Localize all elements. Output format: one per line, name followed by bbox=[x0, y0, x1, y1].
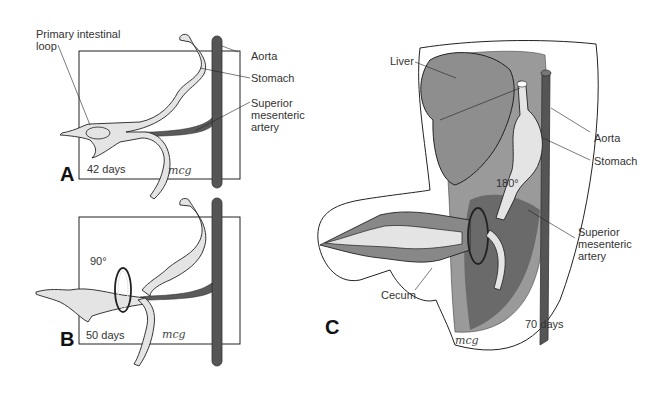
age-label-c: 70 days bbox=[525, 318, 564, 330]
label-cecum: Cecum bbox=[381, 289, 416, 301]
label-primary-intestinal-loop: Primary intestinal loop bbox=[36, 28, 120, 52]
label-stomach-c: Stomach bbox=[594, 155, 637, 167]
label-sma-a-line3: artery bbox=[251, 121, 305, 133]
aorta-a bbox=[212, 36, 222, 188]
rotation-angle-c: 180° bbox=[496, 177, 519, 189]
label-stomach-a: Stomach bbox=[251, 72, 294, 84]
panel-c-drawing bbox=[318, 41, 598, 350]
stomach-b bbox=[142, 198, 206, 296]
label-aorta-a: Aorta bbox=[251, 50, 277, 62]
embryology-diagram bbox=[0, 0, 667, 412]
label-sma-c: Superior mesenteric artery bbox=[578, 226, 632, 262]
label-sma-a-line2: mesenteric bbox=[251, 109, 305, 121]
label-sma-c-line1: Superior bbox=[578, 226, 632, 238]
panel-letter-b: B bbox=[60, 328, 74, 351]
label-sma-a-line1: Superior bbox=[251, 97, 305, 109]
aorta-c bbox=[540, 72, 550, 345]
label-sma-c-line3: artery bbox=[578, 250, 632, 262]
panel-letter-c: C bbox=[325, 316, 339, 339]
label-loop-line2: loop bbox=[36, 40, 120, 52]
panel-letter-a: A bbox=[60, 163, 74, 186]
label-loop-line1: Primary intestinal bbox=[36, 28, 120, 40]
signature-a: mcg bbox=[168, 164, 192, 177]
signature-c: mcg bbox=[455, 334, 479, 347]
label-aorta-c: Aorta bbox=[594, 132, 620, 144]
label-sma-a: Superior mesenteric artery bbox=[251, 97, 305, 133]
aorta-b bbox=[212, 198, 222, 366]
label-liver: Liver bbox=[390, 55, 414, 67]
age-label-b: 50 days bbox=[86, 329, 125, 341]
signature-b: mcg bbox=[162, 328, 186, 341]
rotation-angle-b: 90° bbox=[90, 255, 107, 267]
age-label-a: 42 days bbox=[87, 163, 126, 175]
label-sma-c-line2: mesenteric bbox=[578, 238, 632, 250]
